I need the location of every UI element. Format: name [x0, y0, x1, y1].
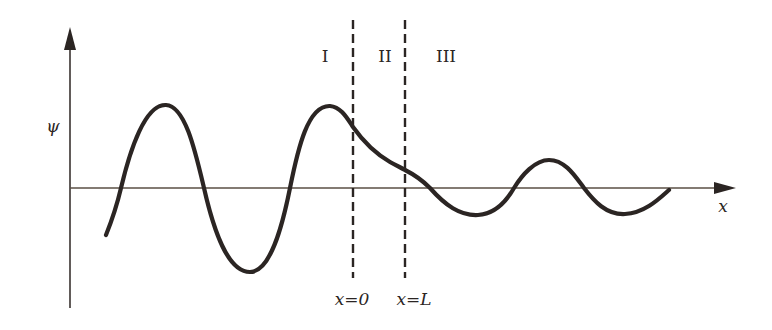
- x-axis-arrow-icon: [714, 182, 736, 194]
- region-label-2: II: [378, 46, 391, 66]
- boundary-label-xL: x=L: [396, 289, 431, 309]
- boundary-label-x0: x=0: [335, 289, 370, 309]
- x-axis-label: x: [718, 196, 728, 216]
- wavefunction-diagram: ψ x I II III x=0 x=L: [0, 0, 772, 330]
- region-label-1: I: [322, 46, 329, 66]
- y-axis-label: ψ: [46, 116, 60, 136]
- region-label-3: III: [436, 46, 456, 66]
- x-axis: [70, 182, 736, 194]
- y-axis-arrow-icon: [64, 27, 76, 50]
- y-axis: [64, 27, 76, 308]
